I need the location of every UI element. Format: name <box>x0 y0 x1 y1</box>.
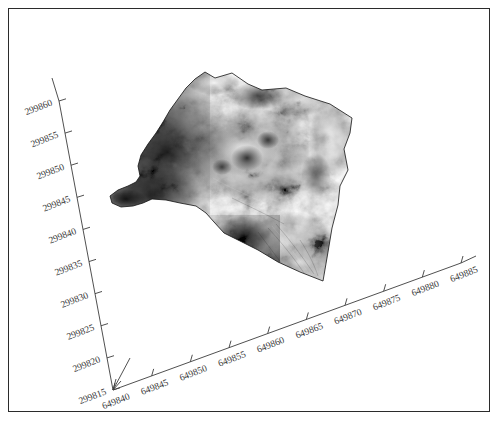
easting-tick-label: 649845 <box>139 376 170 397</box>
northing-tick-label: 299845 <box>41 193 72 214</box>
northing-tick <box>107 356 114 358</box>
northing-tick-marks <box>59 99 120 390</box>
northing-tick <box>59 99 66 101</box>
northing-tick-label: 299830 <box>59 289 90 310</box>
northing-tick-label: 299850 <box>35 161 66 182</box>
easting-tick-label: 649865 <box>294 320 325 341</box>
easting-tick-label: 649860 <box>255 334 286 355</box>
northing-axis-arrow <box>52 78 59 101</box>
surface-plot-3d: 2998152998202998252998302998352998402998… <box>0 0 498 425</box>
northing-axis-line <box>59 101 113 390</box>
northing-tick-label: 299840 <box>47 225 78 246</box>
easting-axis-arrow <box>461 256 476 263</box>
easting-tick-labels: 6498406498456498506498556498606498656498… <box>100 263 479 411</box>
northing-tick <box>83 227 90 229</box>
easting-tick-label: 649870 <box>332 306 363 327</box>
northing-tick-label: 299820 <box>71 353 102 374</box>
northing-tick <box>101 324 108 326</box>
northing-tick <box>89 259 96 261</box>
northing-tick <box>65 131 72 133</box>
easting-tick-marks <box>113 256 463 390</box>
northing-tick-labels: 2998152998202998252998302998352998402998… <box>23 97 108 407</box>
easting-axis-line <box>113 263 461 390</box>
northing-tick-label: 299855 <box>29 129 60 150</box>
easting-tick-label: 649880 <box>410 277 441 298</box>
easting-tick-label: 649850 <box>178 362 209 383</box>
northing-tick-label: 299825 <box>65 321 96 342</box>
northing-tick-label: 299835 <box>53 257 84 278</box>
northing-tick-label: 299860 <box>23 97 54 118</box>
terrain-surface <box>93 60 370 295</box>
easting-tick-label: 649855 <box>216 348 247 369</box>
northing-tick <box>95 291 102 293</box>
northing-tick <box>71 163 78 165</box>
easting-tick-label: 649875 <box>371 292 402 313</box>
northing-tick <box>77 195 84 197</box>
easting-tick-label: 649885 <box>448 263 479 284</box>
